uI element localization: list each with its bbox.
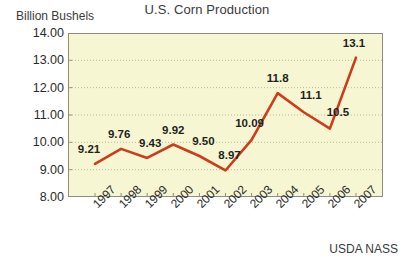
series-line xyxy=(95,58,356,171)
x-axis-tick-labels: 1997199819992000200120022003200420052006… xyxy=(68,198,383,244)
y-tick-label: 9.00 xyxy=(4,163,64,177)
chart-container: Billion Bushels U.S. Corn Production 14.… xyxy=(0,0,414,261)
y-tick-label: 11.00 xyxy=(4,108,64,122)
y-tick-label: 12.00 xyxy=(4,81,64,95)
y-tick-label: 10.00 xyxy=(4,135,64,149)
plot-area xyxy=(68,33,383,197)
y-tick-label: 13.00 xyxy=(4,53,64,67)
data-line-svg xyxy=(68,33,383,197)
chart-title: U.S. Corn Production xyxy=(0,2,414,17)
source-note: USDA NASS xyxy=(329,242,398,256)
y-axis-tick-labels: 14.0013.0012.0011.0010.009.008.00 xyxy=(0,33,64,197)
y-tick-label: 8.00 xyxy=(4,190,64,204)
y-tick-label: 14.00 xyxy=(4,26,64,40)
